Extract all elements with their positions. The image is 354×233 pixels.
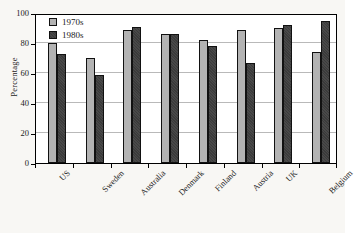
- bar-sweden-1980s: [95, 75, 104, 164]
- bar-denmark-1970s: [161, 34, 170, 163]
- x-axis-label-uk: UK: [284, 168, 300, 184]
- bar-sweden-1970s: [86, 58, 95, 163]
- bar-group: [123, 15, 141, 163]
- y-axis-tick-label: 40: [21, 98, 30, 108]
- bar-finland-1970s: [199, 40, 208, 163]
- bar-austria-1970s: [237, 30, 246, 164]
- bar-group: [312, 15, 330, 163]
- bar-group: [237, 15, 255, 163]
- bar-finland-1980s: [208, 46, 217, 163]
- bar-group: [86, 15, 104, 163]
- bar-austria-1980s: [246, 63, 255, 164]
- x-axis-label-us: US: [57, 168, 72, 183]
- legend-swatch-1970s-icon: [49, 18, 57, 26]
- x-axis-labels: USSwedenAustraliaDenmarkFinlandAustriaUK…: [35, 168, 337, 228]
- x-axis-label-austria: Austria: [250, 168, 275, 193]
- legend-item-1980s: 1980s: [49, 29, 84, 40]
- bar-belgium-1970s: [312, 52, 321, 163]
- legend-swatch-1980s-icon: [49, 31, 57, 39]
- x-axis-label-australia: Australia: [139, 168, 168, 197]
- x-axis-label-denmark: Denmark: [176, 168, 205, 197]
- y-axis-tick-label: 100: [16, 8, 29, 18]
- y-axis-tick-label: 80: [21, 38, 30, 48]
- bar-group: [274, 15, 292, 163]
- bar-group: [161, 15, 179, 163]
- y-axis-ticks: 020406080100: [0, 14, 35, 164]
- bar-uk-1980s: [283, 25, 292, 163]
- y-axis-tick-label: 20: [21, 128, 30, 138]
- legend-label-1970s: 1970s: [62, 17, 84, 27]
- bar-group: [199, 15, 217, 163]
- y-axis-tick-label: 0: [25, 158, 29, 168]
- bar-us-1980s: [57, 54, 66, 164]
- legend-label-1980s: 1980s: [62, 30, 84, 40]
- chart-legend: 1970s 1980s: [49, 16, 84, 40]
- bar-australia-1970s: [123, 30, 132, 164]
- x-axis-label-sweden: Sweden: [100, 168, 126, 194]
- x-axis-label-finland: Finland: [212, 168, 237, 193]
- bar-belgium-1980s: [321, 21, 330, 164]
- bar-denmark-1980s: [170, 34, 179, 163]
- x-axis-label-belgium: Belgium: [327, 168, 354, 196]
- bar-us-1970s: [48, 43, 57, 163]
- bar-australia-1980s: [132, 27, 141, 164]
- y-axis-tick-label: 60: [21, 68, 30, 78]
- bar-uk-1970s: [274, 28, 283, 163]
- legend-item-1970s: 1970s: [49, 16, 84, 27]
